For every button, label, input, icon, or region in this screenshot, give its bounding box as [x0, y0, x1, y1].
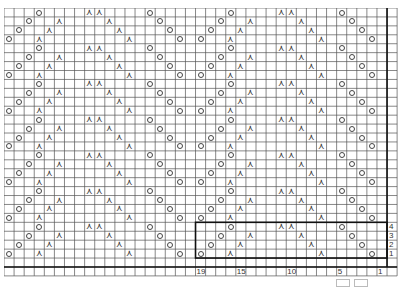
- yarn-over-icon: [339, 10, 345, 16]
- left-decrease-icon: ⋏: [276, 8, 286, 17]
- yarn-over-icon: [339, 45, 345, 51]
- left-decrease-icon: ⋏: [246, 17, 256, 26]
- right-decrease-icon: ⋏: [316, 71, 326, 80]
- left-decrease-icon: ⋏: [34, 106, 44, 115]
- yarn-over-icon: [167, 242, 173, 248]
- right-decrease-icon: ⋏: [296, 160, 306, 169]
- yarn-over-icon: [228, 117, 234, 123]
- left-decrease-icon: ⋏: [276, 79, 286, 88]
- yarn-over-icon: [26, 233, 32, 239]
- left-decrease-icon: ⋏: [54, 196, 64, 205]
- left-decrease-icon: ⋏: [246, 231, 256, 240]
- yarn-over-icon: [208, 242, 214, 248]
- left-decrease-icon: ⋏: [246, 88, 256, 97]
- left-decrease-icon: ⋏: [34, 213, 44, 222]
- yarn-over-icon: [359, 206, 365, 212]
- left-decrease-icon: ⋏: [44, 169, 54, 178]
- yarn-over-icon: [349, 197, 355, 203]
- yarn-over-icon: [208, 135, 214, 141]
- right-decrease-icon: ⋏: [306, 26, 316, 35]
- row-number-label: 3: [389, 231, 393, 240]
- left-decrease-icon: ⋏: [34, 249, 44, 258]
- yarn-over-icon: [369, 179, 375, 185]
- yarn-over-icon: [369, 215, 375, 221]
- yarn-over-icon: [228, 10, 234, 16]
- yarn-over-icon: [198, 215, 204, 221]
- yarn-over-icon: [339, 81, 345, 87]
- yarn-over-icon: [339, 117, 345, 123]
- yarn-over-icon: [369, 251, 375, 257]
- left-decrease-icon: ⋏: [236, 97, 246, 106]
- left-decrease-icon: ⋏: [226, 249, 236, 258]
- right-decrease-icon: ⋏: [105, 124, 115, 133]
- yarn-over-icon: [16, 242, 22, 248]
- yarn-over-icon: [36, 10, 42, 16]
- left-decrease-icon: ⋏: [226, 106, 236, 115]
- left-decrease-icon: ⋏: [44, 26, 54, 35]
- yarn-over-icon: [16, 135, 22, 141]
- right-decrease-icon: ⋏: [105, 196, 115, 205]
- left-decrease-icon: ⋏: [54, 124, 64, 133]
- yarn-over-icon: [26, 90, 32, 96]
- left-decrease-icon: ⋏: [85, 8, 95, 17]
- left-decrease-icon: ⋏: [226, 71, 236, 80]
- column-number-label: 10: [287, 267, 296, 276]
- left-decrease-icon: ⋏: [44, 97, 54, 106]
- right-decrease-icon: ⋏: [286, 8, 296, 17]
- yarn-over-icon: [36, 117, 42, 123]
- right-decrease-icon: ⋏: [115, 26, 125, 35]
- yarn-over-icon: [208, 99, 214, 105]
- yarn-over-icon: [359, 170, 365, 176]
- right-decrease-icon: ⋏: [95, 79, 105, 88]
- yarn-over-icon: [198, 179, 204, 185]
- right-decrease-icon: ⋏: [125, 71, 135, 80]
- left-decrease-icon: ⋏: [44, 204, 54, 213]
- left-decrease-icon: ⋏: [246, 160, 256, 169]
- yarn-over-icon: [349, 90, 355, 96]
- left-decrease-icon: ⋏: [34, 71, 44, 80]
- left-decrease-icon: ⋏: [54, 53, 64, 62]
- yarn-over-icon: [6, 72, 12, 78]
- right-decrease-icon: ⋏: [286, 187, 296, 196]
- yarn-over-icon: [339, 188, 345, 194]
- right-decrease-icon: ⋏: [125, 178, 135, 187]
- left-decrease-icon: ⋏: [246, 124, 256, 133]
- right-decrease-icon: ⋏: [286, 151, 296, 160]
- yarn-over-icon: [349, 54, 355, 60]
- right-decrease-icon: ⋏: [105, 231, 115, 240]
- right-decrease-icon: ⋏: [316, 142, 326, 151]
- yarn-over-icon: [147, 81, 153, 87]
- left-decrease-icon: ⋏: [236, 240, 246, 249]
- yarn-over-icon: [218, 233, 224, 239]
- left-decrease-icon: ⋏: [34, 35, 44, 44]
- right-decrease-icon: ⋏: [115, 204, 125, 213]
- right-decrease-icon: ⋏: [105, 88, 115, 97]
- yarn-over-icon: [228, 224, 234, 230]
- yarn-over-icon: [369, 72, 375, 78]
- left-decrease-icon: ⋏: [276, 187, 286, 196]
- yarn-over-icon: [6, 108, 12, 114]
- right-decrease-icon: ⋏: [296, 53, 306, 62]
- left-decrease-icon: ⋏: [226, 178, 236, 187]
- yarn-over-icon: [349, 126, 355, 132]
- right-decrease-icon: ⋏: [95, 151, 105, 160]
- right-decrease-icon: ⋏: [316, 35, 326, 44]
- yarn-over-icon: [167, 135, 173, 141]
- yarn-over-icon: [6, 251, 12, 257]
- right-decrease-icon: ⋏: [296, 88, 306, 97]
- row-number-label: 4: [389, 222, 393, 231]
- right-decrease-icon: ⋏: [125, 35, 135, 44]
- column-number-label: 15: [237, 267, 246, 276]
- yarn-over-icon: [218, 54, 224, 60]
- left-decrease-icon: ⋏: [85, 187, 95, 196]
- left-decrease-icon: ⋏: [44, 133, 54, 142]
- left-decrease-icon: ⋏: [226, 35, 236, 44]
- yarn-over-icon: [208, 170, 214, 176]
- right-decrease-icon: ⋏: [105, 160, 115, 169]
- legend-knit-icon: [336, 279, 350, 287]
- yarn-over-icon: [228, 81, 234, 87]
- yarn-over-icon: [208, 206, 214, 212]
- right-decrease-icon: ⋏: [115, 240, 125, 249]
- yarn-over-icon: [369, 108, 375, 114]
- yarn-over-icon: [339, 224, 345, 230]
